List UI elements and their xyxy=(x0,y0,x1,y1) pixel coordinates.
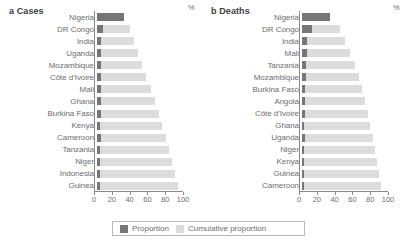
panels-row: a Cases NigeriaDR CongoIndiaUgandaMozamb… xyxy=(0,0,410,215)
legend-label-cumulative: Cumulative proportion xyxy=(188,224,266,233)
panel-b-category-label: Uganda xyxy=(211,133,302,142)
panel-b-y-axis-line xyxy=(299,11,300,192)
axis-tick-label: 100 xyxy=(382,195,395,204)
panel-a-category-label: Nigeria xyxy=(6,13,97,22)
panel-b-category-label: Nigeria xyxy=(211,13,302,22)
panel-b-category-label: Côte d'Ivoire xyxy=(211,109,302,118)
axis-tick-label: 40 xyxy=(125,195,133,204)
legend-label-proportion: Proportion xyxy=(132,224,169,233)
axis-tick-label: 0 xyxy=(92,195,96,204)
panel-a-category-label: Cameroon xyxy=(6,133,97,142)
panel-a-category-label: India xyxy=(6,37,97,46)
panel-a-category-label: Tanzania xyxy=(6,145,97,154)
panel-a-category-label: Niger xyxy=(6,157,97,166)
panel-b-category-label: Ghana xyxy=(211,121,302,130)
panel-b-category-label: Niger xyxy=(211,145,302,154)
axis-tick-label: 100 xyxy=(177,195,190,204)
panel-b-axis: 020406080100 xyxy=(299,11,388,192)
axis-tick-label: 60 xyxy=(143,195,151,204)
panel-b-category-label: Mozambique xyxy=(211,73,302,82)
panel-b-category-label: Burkina Faso xyxy=(211,85,302,94)
panel-b-ticks: 020406080100 xyxy=(299,192,388,206)
panel-a-category-label: Guinea xyxy=(6,181,97,190)
panel-a-y-axis-line xyxy=(94,11,95,192)
panel-a-category-label: Burkina Faso xyxy=(6,109,97,118)
axis-tick-label: 20 xyxy=(313,195,321,204)
panel-a-category-label: Mozambique xyxy=(6,61,97,70)
panel-a-axis-unit: % xyxy=(188,3,195,12)
panel-a-category-label: Uganda xyxy=(6,49,97,58)
axis-tick-label: 40 xyxy=(330,195,338,204)
panel-cases: a Cases NigeriaDR CongoIndiaUgandaMozamb… xyxy=(0,0,205,215)
legend-swatch-proportion xyxy=(120,225,128,233)
panel-b-category-label: Angola xyxy=(211,97,302,106)
panel-b-category-label: Mali xyxy=(211,49,302,58)
panel-b-category-label: Tanzania xyxy=(211,61,302,70)
axis-tick-label: 80 xyxy=(366,195,374,204)
panel-b-category-label: India xyxy=(211,37,302,46)
chart-legend: ProportionCumulative proportion xyxy=(112,221,305,236)
panel-b-category-label: DR Congo xyxy=(211,25,302,34)
panel-a-axis: 020406080100 xyxy=(94,11,183,192)
axis-tick-label: 80 xyxy=(161,195,169,204)
axis-tick-label: 0 xyxy=(297,195,301,204)
panel-deaths: b Deaths NigeriaDR CongoIndiaMaliTanzani… xyxy=(205,0,410,215)
panel-a-category-label: Mali xyxy=(6,85,97,94)
panel-b-category-label: Guinea xyxy=(211,169,302,178)
legend-item-proportion: Proportion xyxy=(120,224,169,233)
legend-item-cumulative: Cumulative proportion xyxy=(176,224,266,233)
panel-a-category-label: Côte d'Ivoire xyxy=(6,73,97,82)
panel-b-category-label: Kenya xyxy=(211,157,302,166)
panel-a-category-label: Ghana xyxy=(6,97,97,106)
panel-a-category-label: Kenya xyxy=(6,121,97,130)
panel-b-axis-unit: % xyxy=(393,3,400,12)
axis-tick-label: 20 xyxy=(108,195,116,204)
figure-container: a Cases NigeriaDR CongoIndiaUgandaMozamb… xyxy=(0,0,410,248)
panel-b-category-label: Cameroon xyxy=(211,181,302,190)
axis-tick-label: 60 xyxy=(348,195,356,204)
panel-a-category-label: DR Congo xyxy=(6,25,97,34)
legend-swatch-cumulative xyxy=(176,225,184,233)
panel-a-category-label: Indonesia xyxy=(6,169,97,178)
panel-a-ticks: 020406080100 xyxy=(94,192,183,206)
